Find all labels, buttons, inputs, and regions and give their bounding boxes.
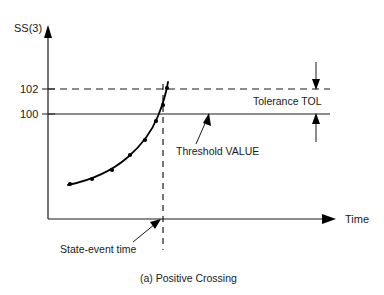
tolerance-arrow-up [312, 113, 320, 124]
diagram-canvas: SS(3) Time 102 100 Tolerance TOL Thresho… [0, 0, 384, 295]
y-axis-arrowhead [44, 25, 52, 38]
threshold-label: Threshold VALUE [176, 145, 259, 157]
state-event-label: State-event time [60, 243, 137, 255]
ss3-curve [68, 82, 168, 185]
y-axis-label: SS(3) [14, 22, 42, 34]
tolerance-label: Tolerance TOL [253, 95, 322, 107]
figure-positive-crossing: SS(3) Time 102 100 Tolerance TOL Thresho… [0, 0, 384, 295]
figure-caption: (a) Positive Crossing [140, 272, 237, 284]
threshold-leader [196, 113, 211, 144]
x-axis-label: Time [345, 213, 369, 225]
tolerance-arrow-down [312, 79, 320, 90]
x-axis [48, 214, 336, 224]
threshold-leader-arrowhead [203, 113, 211, 126]
state-event-leader [133, 219, 161, 242]
state-event-leader-arrowhead [150, 219, 161, 229]
y-axis [44, 25, 52, 219]
x-axis-arrowhead [322, 214, 336, 224]
y-tick-label-upper: 102 [20, 83, 38, 95]
y-tick-label-lower: 100 [20, 108, 38, 120]
ss3-data-points [68, 86, 169, 186]
